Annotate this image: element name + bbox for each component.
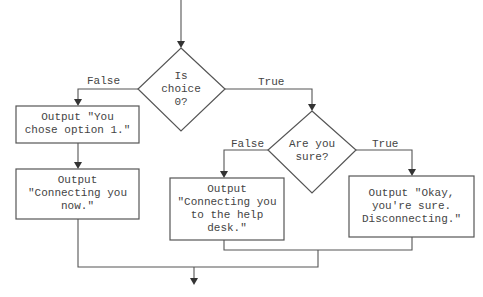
arrow-head-icon	[408, 169, 416, 176]
connector-d2-true	[356, 150, 412, 170]
arrow-head-icon	[74, 99, 82, 106]
arrow-head-icon	[190, 278, 198, 285]
decision-text-choice: Is choice 0?	[146, 70, 216, 109]
arrow-head-icon	[308, 104, 316, 111]
process-text-connecting-now: Output "Connecting you now."	[16, 174, 139, 213]
connector-d1-true	[225, 89, 312, 105]
process-text-help-desk: Output "Connecting you to the help desk.…	[170, 183, 284, 235]
connector-d1-false	[78, 89, 138, 100]
process-text-disconnecting: Output "Okay, you're sure. Disconnecting…	[349, 187, 474, 226]
decision-text-sure: Are you sure?	[272, 138, 352, 164]
edge-label-d2-true: True	[372, 138, 398, 151]
edge-label-d1-true: True	[258, 76, 284, 89]
arrow-head-icon	[177, 41, 185, 48]
edge-label-d1-false: False	[87, 75, 120, 88]
edge-label-d2-false: False	[231, 138, 264, 151]
connector-d2-false	[224, 150, 268, 172]
arrow-head-icon	[74, 162, 82, 169]
arrow-head-icon	[220, 171, 228, 178]
process-text-option1: Output "You chose option 1."	[16, 111, 139, 137]
